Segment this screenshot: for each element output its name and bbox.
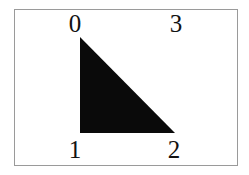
diagram-canvas: 0 3 1 2: [0, 0, 249, 175]
triangle-shape: [0, 0, 249, 175]
vertex-label-3: 3: [163, 11, 189, 36]
triangle-polygon: [80, 37, 175, 133]
vertex-label-0: 0: [62, 11, 88, 36]
vertex-label-2: 2: [161, 137, 187, 162]
vertex-label-1: 1: [62, 137, 88, 162]
figure-root: 0 3 1 2: [0, 0, 249, 175]
